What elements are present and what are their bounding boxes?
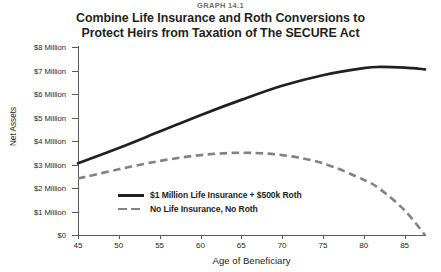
chart-plot-area (0, 0, 441, 272)
chart-figure: GRAPH 14.1 Combine Life Insurance and Ro… (0, 0, 441, 272)
chart-legend: $1 Million Life Insurance + $500k Roth N… (118, 188, 302, 216)
legend-label-solid: $1 Million Life Insurance + $500k Roth (150, 190, 302, 200)
legend-swatch-dashed-line-icon (118, 202, 144, 216)
legend-item-dashed: No Life Insurance, No Roth (118, 202, 302, 216)
series-line-life-insurance-roth (78, 67, 425, 163)
legend-item-solid: $1 Million Life Insurance + $500k Roth (118, 188, 302, 202)
legend-label-dashed: No Life Insurance, No Roth (150, 204, 258, 214)
legend-swatch-solid-line-icon (118, 188, 144, 202)
